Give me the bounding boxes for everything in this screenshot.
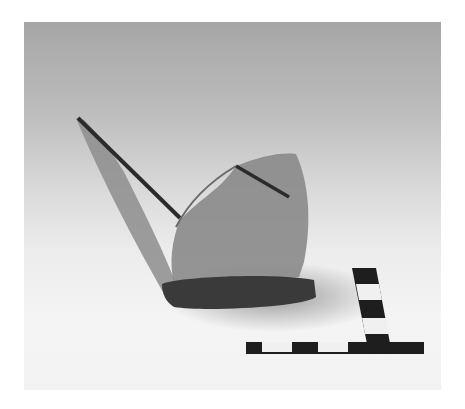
glass-artifact-scene — [24, 22, 441, 390]
right-shard — [172, 154, 309, 284]
photograph — [24, 22, 441, 390]
left-shard — [76, 118, 176, 294]
